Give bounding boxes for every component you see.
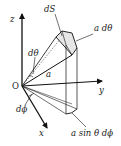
label-a-sin-theta-dphi: a sin θ dϕ [71, 128, 113, 138]
label-dphi: dϕ [16, 104, 27, 114]
base-line-2 [22, 86, 77, 109]
base-line-3 [22, 86, 72, 104]
leader-dS [55, 14, 62, 36]
label-dS: dS [44, 4, 55, 14]
base-line-1 [22, 86, 66, 114]
spherical-surface-element-diagram: z y x O dS a dθ dθ a dϕ a sin θ dϕ [0, 0, 121, 146]
label-z: z [9, 14, 15, 24]
label-x: x [39, 128, 44, 138]
leader-a-dtheta [76, 34, 93, 41]
label-y: y [98, 85, 104, 95]
surface-patch-dS [56, 31, 77, 55]
base-arc [66, 109, 77, 114]
leader-a-sin-theta-dphi [72, 113, 86, 127]
label-origin: O [12, 81, 19, 91]
label-dtheta: dθ [28, 48, 39, 58]
label-a: a [46, 69, 51, 79]
label-a-dtheta: a dθ [94, 23, 112, 33]
y-axis [22, 81, 102, 86]
radius-line-dashed [22, 37, 62, 86]
